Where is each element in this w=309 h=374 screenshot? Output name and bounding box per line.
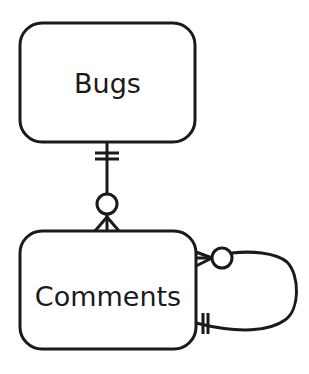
cardinality-zero-or-many-icon: [196, 248, 232, 268]
cardinality-exactly-one-icon: [203, 313, 208, 334]
cardinality-zero-or-many-icon: [95, 194, 119, 231]
relationship-comments-self: [196, 248, 297, 334]
entity-label-comments: Comments: [35, 281, 181, 312]
relationship-bugs-comments: [95, 142, 119, 231]
er-diagram: Bugs Comments: [0, 0, 309, 374]
entity-label-bugs: Bugs: [74, 68, 141, 99]
